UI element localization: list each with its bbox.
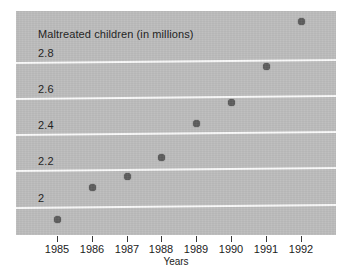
x-tick-1990 — [231, 236, 232, 242]
x-tick-label-1992: 1992 — [289, 243, 313, 255]
y-tick-label-2-6: 2.6 — [38, 84, 54, 95]
x-tick-1989 — [196, 236, 197, 242]
x-tick-label-1987: 1987 — [115, 243, 139, 255]
x-tick-label-1990: 1990 — [219, 243, 243, 255]
x-tick-label-1988: 1988 — [149, 243, 173, 255]
data-point-1986 — [89, 184, 96, 191]
scan-grain-overlay — [16, 11, 336, 235]
x-tick-1992 — [301, 236, 302, 242]
y-tick-label-2-2: 2.2 — [38, 156, 54, 167]
chart-title: Maltreated children (in millions) — [38, 28, 194, 40]
y-tick-label-2-0: 2 — [38, 193, 44, 204]
gridline-2-6 — [16, 95, 336, 100]
y-tick-label-2-4: 2.4 — [38, 120, 54, 131]
data-point-1989 — [193, 120, 200, 127]
x-tick-1991 — [266, 236, 267, 242]
x-tick-label-1985: 1985 — [45, 243, 69, 255]
data-point-1991 — [263, 63, 270, 70]
x-axis-title: Years — [163, 256, 188, 267]
x-tick-label-1991: 1991 — [254, 243, 278, 255]
x-tick-label-1986: 1986 — [80, 243, 104, 255]
scatter-chart: Maltreated children (in millions) 2.8 2.… — [0, 0, 352, 274]
gridline-2-0 — [16, 204, 336, 209]
x-tick-1985 — [57, 236, 58, 242]
x-tick-1987 — [127, 236, 128, 242]
x-tick-1986 — [92, 236, 93, 242]
gridline-2-8 — [16, 59, 336, 64]
x-tick-1988 — [161, 236, 162, 242]
data-point-1988 — [158, 154, 165, 161]
data-point-1990 — [228, 99, 235, 106]
gridline-2-2 — [16, 167, 336, 172]
y-tick-label-2-8: 2.8 — [38, 48, 54, 59]
data-point-1992 — [298, 18, 305, 25]
data-point-1985 — [54, 216, 61, 223]
data-point-1987 — [124, 173, 131, 180]
x-tick-label-1989: 1989 — [184, 243, 208, 255]
gridline-2-4 — [16, 131, 336, 136]
plot-area: Maltreated children (in millions) 2.8 2.… — [16, 11, 336, 235]
